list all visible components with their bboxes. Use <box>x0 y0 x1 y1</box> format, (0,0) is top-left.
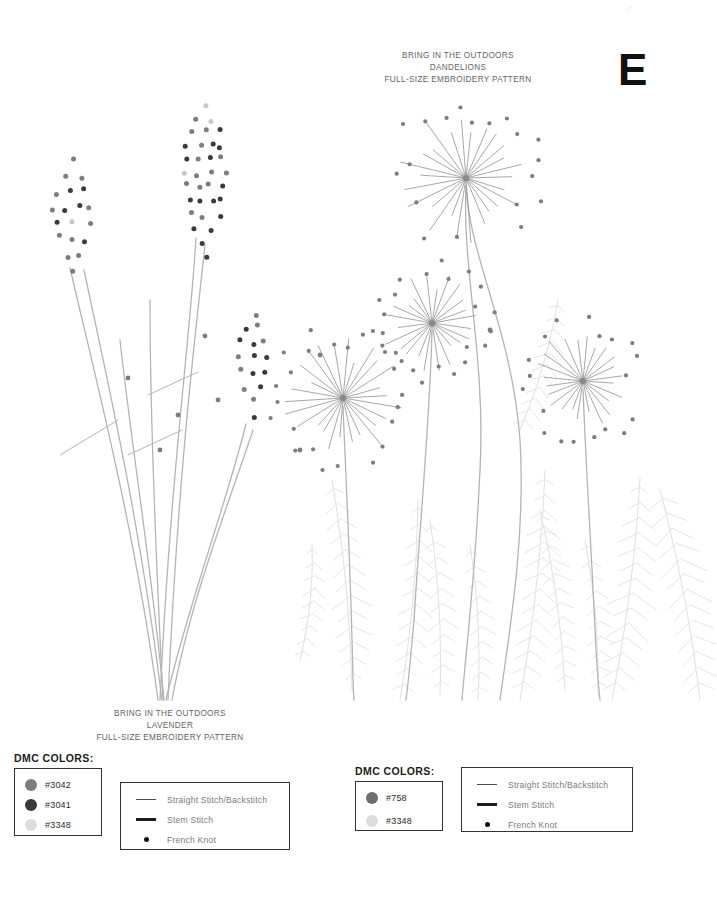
legend-dandelions-stitch-entry: Straight Stitch/Backstitch <box>474 776 620 793</box>
dandelion-stem <box>343 406 354 700</box>
french-knot <box>455 235 459 239</box>
fern-barb <box>534 495 545 501</box>
french-knot <box>458 105 462 109</box>
legend-dandelions: DMC COLORS: #758#3348 Straight Stitch/Ba… <box>355 765 633 832</box>
fern-barb <box>327 504 338 514</box>
fern-barb <box>684 574 704 582</box>
lavender-pattern-subtitle: FULL-SIZE EMBROIDERY PATTERN <box>55 732 285 744</box>
french-knot <box>63 174 68 179</box>
french-knot <box>446 277 450 281</box>
french-knot <box>336 464 340 468</box>
french-knot <box>182 171 187 176</box>
fern-barb <box>556 661 565 669</box>
fern-barb <box>393 684 403 689</box>
dandelion-ray <box>421 175 466 178</box>
fern-barb <box>472 688 480 693</box>
fern-barb <box>334 488 344 493</box>
french-knot <box>483 344 487 348</box>
fern-barb <box>620 668 634 681</box>
foliage-layer <box>295 300 717 700</box>
french-knot <box>536 138 540 142</box>
fern-barb <box>472 551 478 555</box>
fern-barb <box>623 653 639 667</box>
dandelion-ray <box>577 381 583 419</box>
french-knot <box>70 269 75 274</box>
dandelion-center <box>580 378 586 384</box>
french-knot <box>88 221 93 226</box>
fern-barb <box>588 606 599 615</box>
fern-rachis <box>540 510 565 690</box>
french-knot <box>69 219 74 224</box>
fern-barb <box>613 608 631 616</box>
legend-dandelions-heading: DMC COLORS: <box>355 765 443 777</box>
fern-barb <box>524 682 534 690</box>
fern-barb <box>410 653 422 665</box>
french-knot <box>380 344 384 348</box>
fern-barb <box>586 576 594 582</box>
french-knot <box>82 239 87 244</box>
fern-barb <box>619 533 639 542</box>
dandelion-ray <box>433 150 466 178</box>
legend-lavender-color-entry: #3041 <box>25 796 91 814</box>
fern-barb <box>305 576 315 581</box>
fern-barb <box>593 682 599 687</box>
fern-rachis <box>612 478 640 700</box>
fern-barb <box>466 566 475 573</box>
fern-barb <box>523 589 541 600</box>
french-knot <box>184 181 189 186</box>
fern-frond <box>536 510 577 690</box>
fern-barb <box>601 637 616 644</box>
fern-barb <box>438 558 448 564</box>
fern-barb <box>526 387 540 393</box>
fern-frond <box>295 545 325 660</box>
fern-barb <box>538 341 553 346</box>
legend-dandelions-stitch-box: Straight Stitch/BackstitchStem StitchFre… <box>461 767 633 832</box>
fern-barb <box>565 646 577 651</box>
dandelion-ray <box>549 341 583 381</box>
dandelion-ray <box>432 323 450 364</box>
french-knot <box>158 448 163 453</box>
fern-barb <box>553 617 563 627</box>
fern-barb <box>348 565 366 575</box>
fern-barb <box>313 550 318 554</box>
french-knot <box>536 158 540 162</box>
fern-barb <box>656 528 672 545</box>
dandelion-ray <box>329 398 343 448</box>
french-knot <box>252 415 257 420</box>
dandelion-ray <box>583 381 602 423</box>
legend-lavender-stitch-label: French Knot <box>167 835 216 845</box>
fern-barb <box>581 546 587 550</box>
fern-barb <box>678 636 695 652</box>
dandelion-ray <box>401 323 432 349</box>
fern-barb <box>314 563 321 570</box>
dandelion-ray <box>386 323 432 344</box>
fern-barb <box>531 409 539 420</box>
french-knot <box>71 156 76 161</box>
fern-barb <box>525 574 542 581</box>
fern-barb <box>353 626 372 634</box>
fern-barb <box>581 561 590 569</box>
french-knot <box>487 121 491 125</box>
dandelion-ray <box>545 377 584 381</box>
dandelion-ray <box>583 381 610 415</box>
fern-barb <box>674 605 690 621</box>
fern-barb <box>444 634 456 642</box>
fern-barb <box>419 557 433 569</box>
straight-stitch-icon <box>474 784 500 785</box>
french-knot <box>318 353 323 358</box>
fern-barb <box>339 611 352 622</box>
fern-barb <box>466 551 472 556</box>
fern-barb <box>419 524 427 531</box>
french-knot <box>218 197 223 202</box>
french-knot <box>422 236 426 240</box>
fern-frond <box>513 470 561 700</box>
fern-barb <box>433 650 443 657</box>
dandelion-ray <box>578 341 583 381</box>
french-knot <box>68 188 73 193</box>
french-knot <box>445 116 449 120</box>
fern-barb <box>542 545 550 554</box>
fern-barb <box>443 604 457 612</box>
french-knot <box>411 368 415 372</box>
dandelions-pattern-title: BRING IN THE OUTDOORS DANDELIONS FULL-SI… <box>338 50 578 86</box>
dandelion-ray <box>401 162 466 178</box>
